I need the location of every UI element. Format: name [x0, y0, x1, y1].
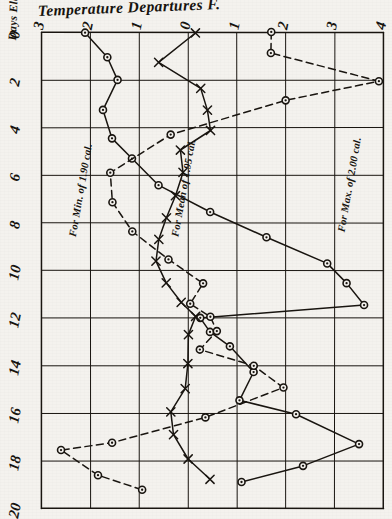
- y-tick-label: 8: [6, 219, 23, 230]
- series-marker-x: [155, 58, 163, 66]
- series-marker-dot: [84, 32, 86, 34]
- series-marker-dot: [345, 282, 347, 284]
- series-marker-dot: [170, 133, 172, 135]
- chart-page: 3210123402468101214161820Temperature Dep…: [0, 0, 392, 519]
- series-marker-dot: [111, 201, 113, 203]
- series-marker-dot: [326, 262, 328, 264]
- series-marker-dot: [358, 443, 360, 445]
- series-marker-dot: [141, 489, 143, 491]
- series-marker-dot: [238, 399, 240, 401]
- series-marker-dot: [240, 481, 242, 483]
- chart-gridlines: [41, 32, 383, 508]
- chart-series: [82, 29, 368, 485]
- chart-series-group: [58, 28, 383, 493]
- series-marker-dot: [253, 365, 255, 367]
- series-marker-x: [197, 84, 205, 92]
- series-marker-dot: [60, 449, 62, 451]
- x-tick-label: 2: [274, 20, 292, 32]
- series-marker-dot: [209, 316, 211, 318]
- series-marker-dot: [209, 331, 211, 333]
- y-tick-label: 12: [5, 311, 24, 329]
- series-marker-dot: [216, 330, 218, 332]
- series-annotation: For Max. of 2.00 cal.: [335, 136, 363, 234]
- chart-canvas: 3210123402468101214161820Temperature Dep…: [0, 0, 392, 519]
- series-marker-dot: [106, 56, 108, 58]
- series-marker-dot: [131, 230, 133, 232]
- y-tick-label: 4: [6, 124, 24, 136]
- chart-series: [58, 28, 383, 493]
- series-marker-x: [206, 475, 214, 483]
- series-marker-dot: [167, 258, 169, 260]
- series-marker-dot: [302, 465, 304, 467]
- series-marker-dot: [97, 474, 99, 476]
- series-marker-dot: [157, 184, 159, 186]
- series-marker-dot: [265, 236, 267, 238]
- x-tick-label: 3: [30, 20, 48, 32]
- chart-title: Temperature Departures F.: [37, 0, 220, 19]
- series-marker-dot: [199, 317, 201, 319]
- series-marker-dot: [229, 345, 231, 347]
- x-tick-label: 3: [323, 20, 341, 32]
- series-line: [85, 33, 364, 482]
- series-marker-dot: [209, 211, 211, 213]
- series-annotation: For Mean of 1.95 cal.: [169, 138, 197, 238]
- series-marker-x: [162, 279, 170, 287]
- series-marker-dot: [109, 172, 111, 174]
- series-marker-dot: [378, 80, 380, 82]
- series-marker-dot: [270, 52, 272, 54]
- y-tick-label: 2: [6, 76, 24, 88]
- series-marker-dot: [363, 304, 365, 306]
- x-tick-label: 4: [372, 20, 390, 32]
- series-marker-dot: [116, 79, 118, 81]
- series-marker-dot: [284, 99, 286, 101]
- y-tick-label: 14: [5, 358, 24, 376]
- series-marker-dot: [102, 109, 104, 111]
- x-tick-label: 1: [128, 20, 145, 31]
- series-marker-dot: [189, 303, 191, 305]
- series-line: [61, 32, 379, 490]
- series-annotation: For Min. of 1.90 cal.: [67, 143, 94, 239]
- series-marker-dot: [270, 31, 272, 33]
- series-marker-dot: [111, 442, 113, 444]
- y-tick-label: 10: [5, 263, 24, 281]
- series-marker-dot: [252, 371, 254, 373]
- y-tick-label: 6: [6, 171, 23, 182]
- series-marker-dot: [202, 282, 204, 284]
- y-tick-label: 20: [5, 501, 24, 519]
- series-marker-dot: [111, 137, 113, 139]
- series-marker-dot: [282, 386, 284, 388]
- y-axis-label: Days Elapsed after Solar Observation.: [6, 0, 26, 42]
- series-marker-x: [162, 214, 170, 222]
- series-marker-x: [177, 298, 185, 306]
- series-marker-dot: [295, 413, 297, 415]
- y-tick-label: 18: [5, 453, 24, 471]
- x-tick-label: 1: [225, 20, 242, 31]
- y-tick-label: 16: [5, 406, 24, 424]
- series-marker-dot: [199, 348, 201, 350]
- y-axis-ticklabels: 02468101214161820: [5, 29, 24, 519]
- series-marker-dot: [204, 416, 206, 418]
